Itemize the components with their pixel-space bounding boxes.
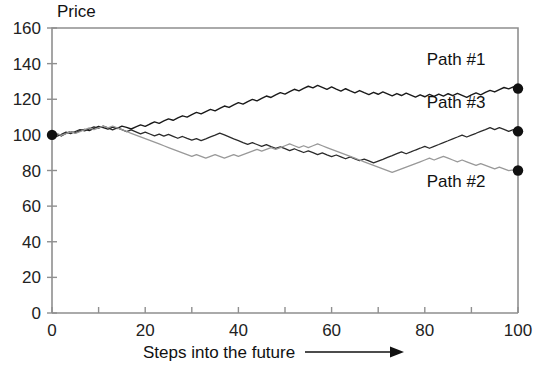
endpoint-marker-1 — [513, 83, 523, 93]
series-annotation-3: Path #2 — [427, 172, 486, 191]
x-tick-label: 100 — [504, 321, 532, 340]
y-tick-label: 120 — [13, 90, 41, 109]
y-tick-label: 0 — [32, 304, 41, 323]
y-axis-title: Price — [57, 2, 96, 21]
chart-canvas: 020406080100120140160 020406080100 Path … — [0, 0, 542, 369]
start-marker — [47, 130, 57, 140]
y-tick-label: 80 — [22, 162, 41, 181]
x-tick-label: 80 — [415, 321, 434, 340]
x-tick-label: 20 — [136, 321, 155, 340]
y-tick-label: 160 — [13, 19, 41, 38]
x-tick-label: 60 — [322, 321, 341, 340]
series-annotation-2: Path #3 — [427, 93, 486, 112]
x-axis-title: Steps into the future — [143, 343, 295, 362]
y-tick-label: 60 — [22, 197, 41, 216]
y-tick-label: 20 — [22, 268, 41, 287]
y-tick-label: 40 — [22, 233, 41, 252]
endpoint-marker-2 — [513, 126, 523, 136]
price-paths-chart: 020406080100120140160 020406080100 Path … — [0, 0, 542, 369]
y-tick-label: 100 — [13, 126, 41, 145]
x-tick-label: 40 — [229, 321, 248, 340]
endpoint-marker-3 — [513, 165, 523, 175]
y-tick-label: 140 — [13, 55, 41, 74]
series-annotation-1: Path #1 — [427, 50, 486, 69]
x-tick-label: 0 — [47, 321, 56, 340]
